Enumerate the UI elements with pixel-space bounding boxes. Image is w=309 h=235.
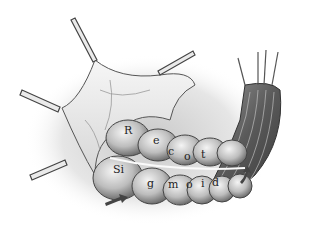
label-i: i bbox=[201, 178, 205, 189]
label-c: c bbox=[168, 146, 174, 157]
label-o2: o bbox=[186, 179, 193, 190]
label-m: m bbox=[168, 179, 178, 190]
anatomical-illustration: R e c o t Si g m o i d bbox=[0, 0, 309, 235]
label-t: t bbox=[201, 149, 205, 160]
label-e: e bbox=[153, 135, 160, 146]
vessel-strands bbox=[238, 50, 278, 85]
label-si: Si bbox=[113, 164, 124, 175]
label-g: g bbox=[147, 178, 154, 189]
illustration-canvas bbox=[0, 0, 309, 235]
label-o: o bbox=[184, 151, 191, 162]
label-d: d bbox=[212, 177, 219, 188]
label-r: R bbox=[124, 125, 132, 136]
